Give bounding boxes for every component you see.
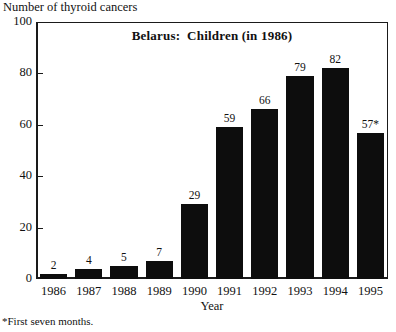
bar-value-label: 4 [86,254,92,267]
bar-value-label: 82 [329,53,341,66]
bar-value-label: 7 [156,246,162,259]
bar-value-label: 2 [51,259,57,272]
bar-group: 66 [247,22,282,279]
x-axis-tick-label: 1987 [71,283,106,299]
x-axis-tick-label: 1989 [142,283,177,299]
y-axis-caption: Number of thyroid cancers [3,0,137,14]
x-axis-tick-label: 1991 [212,283,247,299]
bar-value-label: 59 [224,112,236,125]
x-axis-tick-label: 1993 [282,283,317,299]
bar-group: 4 [71,22,106,279]
footnote: *First seven months. [2,315,93,328]
bar-group: 29 [177,22,212,279]
bar-value-label: 57* [362,118,379,131]
bar-group: 2 [36,22,71,279]
y-axis-tick-label: 0 [26,271,36,286]
bar-value-label: 79 [294,61,306,74]
x-axis-title: Year [36,299,388,314]
x-axis-tick-label: 1988 [106,283,141,299]
x-axis-tick-label: 1986 [36,283,71,299]
bar-group: 5 [106,22,141,279]
y-axis-tick-label: 40 [20,168,37,183]
x-axis-tick-label: 1992 [247,283,282,299]
bar [357,133,384,279]
bar-value-label: 5 [121,251,127,264]
chart-figure: Number of thyroid cancers Belarus: Child… [0,0,396,332]
y-axis-tick-label: 20 [20,220,37,235]
bar [251,109,278,279]
y-axis-tick-label: 60 [20,117,37,132]
bar [181,204,208,279]
bar [75,269,102,279]
bar-group: 57* [353,22,388,279]
bar-group: 59 [212,22,247,279]
bar [322,68,349,279]
bar-value-label: 66 [259,94,271,107]
bar [216,127,243,279]
bar-group: 79 [282,22,317,279]
bar [146,261,173,279]
bar-group: 82 [318,22,353,279]
bar-value-label: 29 [189,189,201,202]
y-axis-tick-label: 80 [20,65,37,80]
x-axis-tick-label: 1995 [353,283,388,299]
x-axis-tick-label: 1990 [177,283,212,299]
bar-group: 7 [142,22,177,279]
bars-layer: 2457295966798257* [36,22,388,279]
bar [110,266,137,279]
bar [286,76,313,279]
y-axis-tick-label: 100 [13,14,36,29]
x-axis-tick-label: 1994 [318,283,353,299]
bar [40,274,67,279]
